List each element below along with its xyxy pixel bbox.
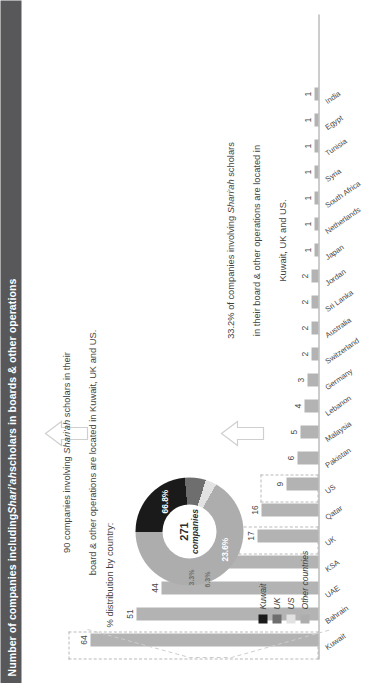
bar-value: 1: [302, 91, 312, 96]
bar-value: 1: [302, 195, 312, 200]
bar-value: 1: [302, 221, 312, 226]
category-label: Australia: [323, 315, 352, 339]
donut-slice-label-other: 66.8%: [159, 489, 169, 513]
callout-right-italic: Shari'ah: [225, 179, 235, 213]
legend-swatch-icon: [300, 614, 309, 623]
bar-rect: [311, 295, 318, 308]
category-label: Japan: [323, 242, 345, 261]
donut-center-caption: companies: [189, 509, 200, 554]
bar-rect: [314, 165, 318, 178]
donut-legend: Kuwait UK US Other countries: [257, 550, 309, 623]
bar-rect: [314, 139, 318, 152]
bar-item: 1: [302, 112, 318, 127]
bar-item: 2: [299, 294, 318, 309]
donut-slice-label-kuwait: 23.6%: [219, 537, 229, 561]
page-title-suffix: scholars in boards & other operations: [5, 278, 17, 471]
category-label: Malaysia: [323, 419, 353, 444]
legend-label: Kuwait: [257, 583, 267, 609]
bar-value: 3: [295, 377, 305, 382]
category-label: Pakistan: [323, 445, 352, 469]
bar-value: 4: [292, 403, 302, 408]
donut-slice-label-uk: 6.3%: [203, 571, 210, 587]
bar-rect: [311, 269, 318, 282]
infographic-stage: Number of companies including Shari'ah s…: [0, 0, 375, 683]
legend-item-other-countries: Other countries: [299, 550, 309, 623]
legend-label: UK: [271, 597, 281, 609]
category-label: Qatar: [323, 503, 344, 521]
bar-item: 1: [302, 242, 318, 257]
bar-item: 1: [302, 164, 318, 179]
bar-value: 2: [299, 351, 309, 356]
callout-right-line1: 33.2% of companies involving: [225, 213, 235, 339]
category-label: KSA: [323, 557, 341, 573]
bar-item: 2: [299, 268, 318, 283]
bar-rect: [311, 347, 318, 360]
bar-rect: [307, 373, 318, 386]
donut-center-number: 271: [178, 522, 189, 540]
category-axis-labels: Kuwait Bahrain UAE KSA UK Qatar US Pakis…: [319, 14, 375, 659]
legend-swatch-icon: [258, 614, 267, 623]
bar-value: 1: [302, 169, 312, 174]
callout-right-text: 33.2% of companies involving Shari'ah sc…: [211, 97, 289, 383]
bar-value: 2: [299, 273, 309, 278]
category-label: Sri Lanka: [323, 288, 354, 314]
chart-canvas: 64 51 44 37 17: [21, 0, 375, 683]
donut-chart-block: % distribution by country: 271 companies…: [77, 421, 317, 631]
bar-item: 1: [302, 86, 318, 101]
bar-value: 2: [299, 325, 309, 330]
category-label: Egypt: [323, 113, 344, 132]
category-label: Switzerland: [323, 335, 360, 365]
category-label: US: [323, 482, 337, 495]
callout-left-italic: Shari'ah: [61, 419, 71, 453]
donut-center-label: 271 companies: [162, 504, 216, 558]
category-label: Jordan: [323, 267, 347, 288]
bar-item: 1: [302, 216, 318, 231]
bar-value: 2: [299, 299, 309, 304]
page-title-italic: Shari'ah: [5, 471, 17, 513]
category-label: UK: [323, 534, 337, 547]
legend-label: Other countries: [299, 550, 309, 609]
page-title: Number of companies including Shari'ah s…: [0, 0, 21, 683]
bar-rect: [311, 321, 318, 334]
category-label: Lebanon: [323, 393, 352, 417]
bar-item: 4: [292, 398, 318, 413]
callout-left-line1: 90 companies involving: [61, 453, 71, 552]
callout-right-line3: in their board & other operations are lo…: [251, 144, 261, 335]
bar-item: 2: [299, 346, 318, 361]
bar-rect: [314, 243, 318, 256]
bar-rect: [314, 191, 318, 204]
bar-rect: [304, 399, 318, 412]
bar-rect: [314, 217, 318, 230]
legend-label: US: [285, 597, 295, 609]
legend-item-us: US: [285, 550, 295, 623]
bar-rect: [314, 113, 318, 126]
callout-right-line2: scholars: [225, 142, 235, 179]
bar-item: 3: [295, 372, 318, 387]
category-label: Germany: [323, 366, 354, 391]
legend-swatch-icon: [286, 614, 295, 623]
callout-left-line2: scholars in their: [61, 352, 71, 420]
legend-item-uk: UK: [271, 550, 281, 623]
category-label: UAE: [323, 583, 341, 599]
page-title-prefix: Number of companies including: [5, 513, 17, 676]
category-label: Syria: [323, 166, 342, 183]
bar-item: 1: [302, 190, 318, 205]
bar-value: 1: [302, 247, 312, 252]
category-label: Tunisia: [323, 136, 348, 157]
bar-value: 1: [302, 143, 312, 148]
donut-slice-label-us: 3.3%: [187, 569, 194, 585]
category-label: Bahrain: [323, 603, 350, 625]
donut-chart-title: % distribution by country:: [103, 522, 114, 627]
legend-swatch-icon: [272, 614, 281, 623]
callout-right-line4: Kuwait, UK and US.: [277, 199, 287, 281]
category-label: India: [323, 89, 342, 106]
bar-value: 1: [302, 117, 312, 122]
bar-item: 1: [302, 138, 318, 153]
bar-rect: [314, 87, 318, 100]
bar-item: 2: [299, 320, 318, 335]
legend-item-kuwait: Kuwait: [257, 550, 267, 623]
